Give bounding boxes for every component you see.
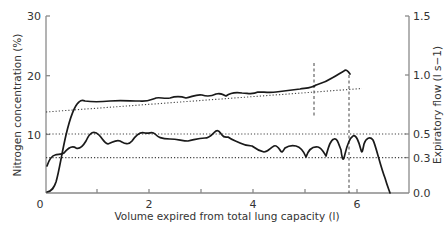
right-tick-labels: 1.5 1.0 0.5 0.3 0.0 <box>413 10 431 200</box>
axes <box>46 16 409 193</box>
y2-tick-label: 1.0 <box>413 69 431 82</box>
y-axis-title: Nitrogen concentration (%) <box>11 34 23 177</box>
nitrogen-concentration-curve <box>47 70 350 192</box>
x-axis-title: Volume expired from total lung capacity … <box>114 210 339 222</box>
y2-tick-label: 0.0 <box>413 187 431 200</box>
volume-markers <box>314 63 349 193</box>
y-tick-label: 30 <box>27 10 41 23</box>
reference-lines <box>46 89 407 158</box>
y-tick-label: 10 <box>27 129 41 142</box>
left-tick-labels: 30 20 10 <box>27 10 41 142</box>
x-tick-label: 0 <box>37 198 44 211</box>
n2-slope-trendline <box>46 89 362 113</box>
y-tick-label: 20 <box>27 70 41 83</box>
y2-axis-title: Expiratory flow (l s−1) <box>431 46 443 164</box>
nitrogen-washout-chart: 30 20 10 0 2 4 6 1.5 1.0 0.5 0.3 0.0 Vol… <box>0 0 448 239</box>
y2-tick-label: 0.5 <box>413 128 431 141</box>
y2-tick-label: 0.3 <box>413 152 431 165</box>
x-tick-label: 6 <box>354 198 361 211</box>
expiratory-flow-curve <box>47 130 390 193</box>
y2-tick-label: 1.5 <box>413 10 431 23</box>
